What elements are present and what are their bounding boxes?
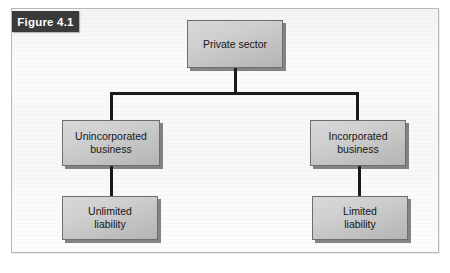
connector-root-stem <box>234 68 237 94</box>
node-incorporated-business-label: Incorporated business <box>329 130 388 156</box>
node-unincorporated-business-label: Unincorporated business <box>75 130 147 156</box>
figure-label-tab: Figure 4.1 <box>12 11 79 32</box>
figure-container: Figure 4.1 Private sector Unincorporated… <box>0 0 450 273</box>
node-limited-liability: Limited liability <box>312 196 408 240</box>
connector-right-lower <box>358 166 361 197</box>
node-private-sector-label: Private sector <box>203 38 267 51</box>
node-unlimited-liability-label: Unlimited liability <box>88 205 132 231</box>
connector-left-lower <box>110 166 113 197</box>
connector-drop-right <box>356 92 359 121</box>
connector-drop-left <box>110 92 113 121</box>
node-private-sector: Private sector <box>187 20 283 68</box>
node-unincorporated-business: Unincorporated business <box>62 120 160 166</box>
node-limited-liability-label: Limited liability <box>343 205 377 231</box>
node-incorporated-business: Incorporated business <box>310 120 406 166</box>
node-unlimited-liability: Unlimited liability <box>62 196 158 240</box>
connector-horizontal-bus <box>110 92 359 95</box>
